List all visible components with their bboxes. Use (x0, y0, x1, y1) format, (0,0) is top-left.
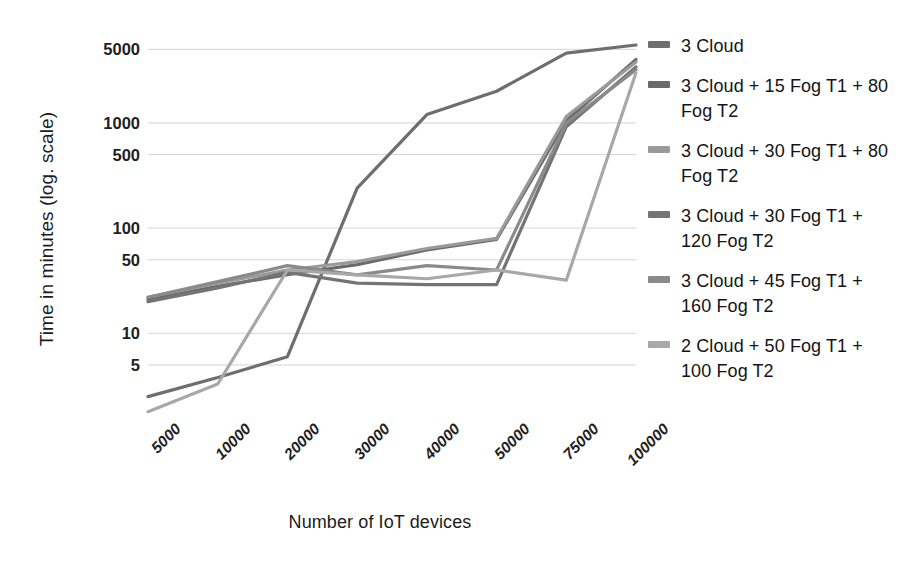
legend-item[interactable]: 3 Cloud + 30 Fog T1 + 80 Fog T2 (648, 139, 896, 189)
legend-swatch-icon (648, 41, 670, 48)
legend-item[interactable]: 3 Cloud + 15 Fog T1 + 80 Fog T2 (648, 74, 896, 124)
y-tick-label: 5000 (103, 40, 140, 59)
y-tick-label: 500 (112, 145, 140, 164)
x-tick-label: 50000 (490, 420, 533, 463)
x-tick-label: 20000 (281, 420, 324, 463)
y-axis-label: Time in minutes (log. scale) (36, 64, 58, 394)
x-tick-label: 40000 (420, 420, 463, 463)
legend-item[interactable]: 3 Cloud + 45 Fog T1 + 160 Fog T2 (648, 269, 896, 319)
data-series-line (148, 67, 636, 302)
series-canvas (148, 34, 636, 420)
chart-figure: Time in minutes (log. scale) 50001000500… (0, 0, 900, 567)
y-tick-label: 50 (122, 250, 140, 269)
x-tick-label: 75000 (560, 420, 603, 463)
legend-swatch-icon (648, 146, 670, 153)
y-axis-tick-labels: 5000100050010050105 (58, 34, 140, 420)
x-tick-label: 5000 (148, 420, 185, 457)
legend-item-label: 3 Cloud + 45 Fog T1 + 160 Fog T2 (681, 269, 896, 319)
y-tick-label: 10 (122, 324, 140, 343)
y-tick-label: 5 (131, 355, 140, 374)
x-tick-label: 30000 (351, 420, 394, 463)
legend-item-label: 3 Cloud + 15 Fog T1 + 80 Fog T2 (681, 74, 896, 124)
y-tick-label: 1000 (103, 113, 140, 132)
x-tick-label: 100000 (623, 420, 672, 469)
x-axis-label: Number of IoT devices (120, 512, 640, 533)
legend-item-label: 2 Cloud + 50 Fog T1 + 100 Fog T2 (681, 334, 896, 384)
legend-item[interactable]: 3 Cloud (648, 34, 896, 59)
data-series-line (148, 70, 636, 298)
x-tick-label: 10000 (211, 420, 254, 463)
y-tick-label: 100 (112, 219, 140, 238)
legend-swatch-icon (648, 341, 670, 348)
legend-swatch-icon (648, 211, 670, 218)
legend-item[interactable]: 2 Cloud + 50 Fog T1 + 100 Fog T2 (648, 334, 896, 384)
legend-item-label: 3 Cloud + 30 Fog T1 + 120 Fog T2 (681, 204, 896, 254)
legend-swatch-icon (648, 276, 670, 283)
legend-item-label: 3 Cloud + 30 Fog T1 + 80 Fog T2 (681, 139, 896, 189)
data-series-line (148, 62, 636, 297)
legend-item-label: 3 Cloud (681, 34, 744, 59)
data-series-line (148, 60, 636, 300)
legend-swatch-icon (648, 81, 670, 88)
legend-item[interactable]: 3 Cloud + 30 Fog T1 + 120 Fog T2 (648, 204, 896, 254)
data-series-line (148, 45, 636, 397)
chart-legend: 3 Cloud3 Cloud + 15 Fog T1 + 80 Fog T23 … (648, 34, 896, 399)
x-axis-tick-labels: 5000100002000030000400005000075000100000 (148, 420, 648, 510)
plot-area (148, 34, 636, 420)
